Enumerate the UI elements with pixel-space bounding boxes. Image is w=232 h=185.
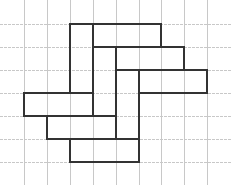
pinwheel-diagram — [0, 0, 232, 185]
rectangle-outlines — [24, 24, 207, 162]
